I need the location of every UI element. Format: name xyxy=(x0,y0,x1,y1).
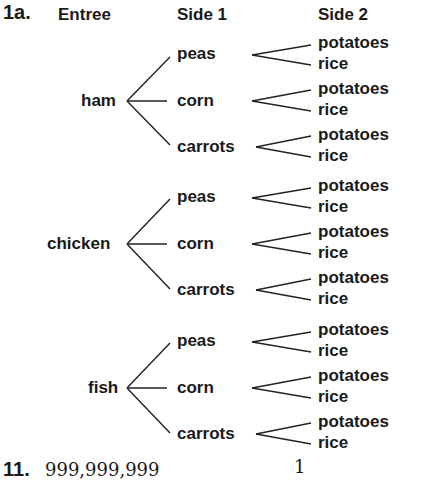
side2-rice: rice xyxy=(318,388,348,405)
footer-value: 999,999,999 xyxy=(45,461,160,479)
entree-ham: ham xyxy=(81,92,116,109)
side2-potatoes: potatoes xyxy=(318,126,389,143)
header-side1: Side 1 xyxy=(177,6,227,23)
entree-fish: fish xyxy=(88,379,118,396)
side1-corn: corn xyxy=(177,379,214,396)
entree-chicken: chicken xyxy=(47,235,110,252)
header-side2: Side 2 xyxy=(318,6,368,23)
side2-rice: rice xyxy=(318,147,348,164)
side2-potatoes: potatoes xyxy=(318,34,389,51)
side2-potatoes: potatoes xyxy=(318,223,389,240)
side2-rice: rice xyxy=(318,101,348,118)
footer-problem-label: 11. xyxy=(3,459,30,479)
side1-peas: peas xyxy=(177,188,216,205)
side2-potatoes: potatoes xyxy=(318,367,389,384)
side2-potatoes: potatoes xyxy=(318,269,389,286)
side2-potatoes: potatoes xyxy=(318,413,389,430)
header-entree: Entree xyxy=(58,6,111,23)
side2-potatoes: potatoes xyxy=(318,177,389,194)
side1-carrots: carrots xyxy=(177,138,235,155)
side2-potatoes: potatoes xyxy=(318,321,389,338)
footer-fraction-numerator: 1 xyxy=(294,458,305,476)
side2-rice: rice xyxy=(318,290,348,307)
side2-rice: rice xyxy=(318,342,348,359)
side1-corn: corn xyxy=(177,235,214,252)
side1-carrots: carrots xyxy=(177,281,235,298)
side2-rice: rice xyxy=(318,55,348,72)
side2-rice: rice xyxy=(318,434,348,451)
side1-peas: peas xyxy=(177,45,216,62)
side2-rice: rice xyxy=(318,244,348,261)
problem-label: 1a. xyxy=(3,2,31,22)
side1-carrots: carrots xyxy=(177,425,235,442)
side1-corn: corn xyxy=(177,92,214,109)
side2-potatoes: potatoes xyxy=(318,80,389,97)
side2-rice: rice xyxy=(318,198,348,215)
side1-peas: peas xyxy=(177,332,216,349)
